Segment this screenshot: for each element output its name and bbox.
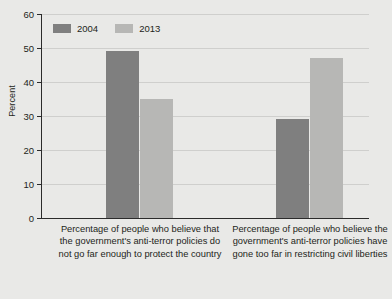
bar-2004-group-1 — [276, 119, 309, 218]
y-tick-label-50: 50 — [23, 43, 34, 54]
x-axis-line — [41, 218, 369, 219]
legend-swatch-icon-2004 — [53, 24, 71, 33]
gridline-60 — [42, 14, 369, 15]
y-tick-label-0: 0 — [29, 213, 34, 224]
legend-item-2004: 2004 — [53, 24, 98, 34]
legend-label-2013: 2013 — [139, 24, 160, 34]
plot-area: 0102030405060 — [41, 14, 369, 219]
bar-2013-group-0 — [140, 99, 173, 218]
legend-label-2004: 2004 — [77, 24, 98, 34]
legend-item-2013: 2013 — [115, 24, 160, 34]
legend: 2004 2013 — [53, 24, 160, 34]
y-axis-title: Percent — [7, 66, 17, 136]
y-tick-label-30: 30 — [23, 111, 34, 122]
bar-2004-group-0 — [106, 51, 139, 218]
bar-2013-group-1 — [310, 58, 343, 218]
x-axis-category-label-1: Percentage of people who believe the gov… — [227, 223, 392, 260]
x-axis-category-label-0: Percentage of people who believe that th… — [57, 223, 223, 260]
x-axis-category-labels: Percentage of people who believe that th… — [41, 223, 369, 299]
y-tick-label-40: 40 — [23, 77, 34, 88]
y-tick-label-20: 20 — [23, 145, 34, 156]
y-tick-label-60: 60 — [23, 9, 34, 20]
gridline-50 — [42, 48, 369, 49]
y-tick-label-10: 10 — [23, 179, 34, 190]
legend-swatch-icon-2013 — [115, 24, 133, 33]
y-axis-line — [41, 14, 42, 219]
